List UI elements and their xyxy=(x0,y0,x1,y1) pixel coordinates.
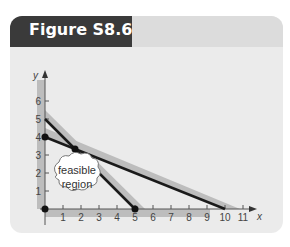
svg-text:1: 1 xyxy=(35,186,41,197)
x-axis-label: x xyxy=(256,211,263,222)
corner-point-origin xyxy=(42,206,49,213)
callout-line-1: feasible xyxy=(58,164,96,176)
svg-text:6: 6 xyxy=(150,212,156,223)
svg-text:4: 4 xyxy=(114,212,120,223)
y-axis-label: y xyxy=(32,70,39,81)
x-axis-arrow-icon xyxy=(249,206,257,212)
corner-point-0-4 xyxy=(42,134,49,141)
corner-point-5-0 xyxy=(132,206,139,213)
svg-text:4: 4 xyxy=(35,132,41,143)
corner-point-intersection xyxy=(72,146,79,153)
y-axis-arrow-icon xyxy=(42,70,48,78)
svg-text:5: 5 xyxy=(132,212,138,223)
svg-text:8: 8 xyxy=(186,212,192,223)
callout-line-2: region xyxy=(62,178,93,190)
feasible-region-plot: 1 2 3 4 5 6 7 8 9 10 11 x 1 2 3 4 5 6 y … xyxy=(0,0,290,247)
svg-text:2: 2 xyxy=(35,168,41,179)
svg-text:7: 7 xyxy=(168,212,174,223)
svg-text:3: 3 xyxy=(96,212,102,223)
feasible-region-callout: feasible region xyxy=(54,152,100,190)
svg-text:3: 3 xyxy=(35,150,41,161)
svg-text:1: 1 xyxy=(60,212,66,223)
svg-text:11: 11 xyxy=(238,212,249,223)
svg-text:5: 5 xyxy=(35,114,41,125)
svg-text:9: 9 xyxy=(204,212,210,223)
svg-text:2: 2 xyxy=(78,212,84,223)
svg-text:6: 6 xyxy=(35,96,41,107)
svg-text:10: 10 xyxy=(219,212,231,223)
